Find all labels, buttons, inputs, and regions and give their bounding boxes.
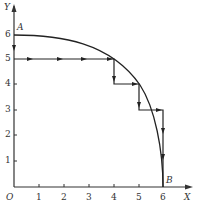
x-axis-label: X [184,193,190,202]
x-tick-label: 2 [61,193,67,202]
x-tick-label: 3 [86,193,92,202]
arrow-down-icon [112,76,116,82]
arrow-right-icon [156,108,162,112]
arrow-right-icon [132,82,138,86]
path-arrows [12,45,165,160]
y-tick-label: 4 [5,79,11,88]
x-tick-label: 5 [136,193,142,202]
x-tick-label: 1 [36,193,42,202]
y-tick-label: 3 [5,105,11,114]
origin-label: O [6,193,13,202]
arrow-right-icon [57,57,63,61]
arrow-down-icon [12,45,16,51]
arrow-down-icon [161,128,165,134]
curve-a-b [14,35,163,187]
y-axis-label: Y [4,3,10,12]
point-b-label: B [166,176,173,185]
y-axis-arrow-icon [12,4,17,12]
y-tick-label: 6 [5,30,11,39]
point-a-label: A [17,23,24,32]
arrow-right-icon [27,57,33,61]
arrow-down-icon [137,102,141,108]
x-axis-arrow-icon [185,185,193,190]
x-tick-label: 6 [160,193,166,202]
arrow-right-icon [81,57,87,61]
y-tick-label: 5 [5,54,11,63]
staircase-path [14,59,163,187]
y-tick-label: 2 [5,130,11,139]
y-tick-label: 1 [5,156,11,165]
x-tick-label: 4 [111,193,117,202]
